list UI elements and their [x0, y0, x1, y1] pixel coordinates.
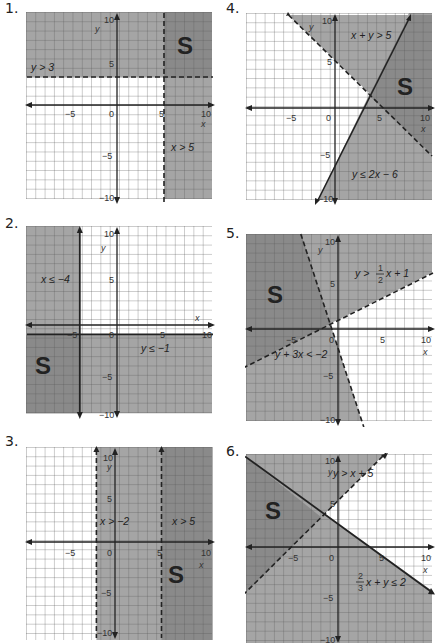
- tick-x-5: 5: [377, 113, 382, 123]
- problem-number-3: 3.: [5, 433, 18, 449]
- tick-x-m5: −5: [65, 109, 75, 119]
- x-axis-label: x: [420, 124, 426, 134]
- y-axis-label: y: [317, 245, 323, 255]
- tick-y-m5: −5: [101, 588, 111, 598]
- tick-y-10: 10: [104, 229, 114, 239]
- tick-x-10: 10: [420, 113, 430, 123]
- tick-y-m10: −10: [320, 635, 335, 643]
- tick-y-m5: −5: [323, 371, 333, 381]
- solution-label: S: [177, 32, 193, 59]
- problem-number-4: 4.: [226, 0, 239, 16]
- tick-x-0: 0: [109, 330, 114, 340]
- inequality-label-2: x > 5: [170, 141, 194, 153]
- svg-text:3: 3: [358, 583, 363, 593]
- tick-x-10: 10: [201, 109, 211, 119]
- tick-y-m5: −5: [320, 150, 330, 160]
- graph-2: −5 0 5 10 10 5 −5 −10 y x x ≤ −4 y ≤ −1 …: [25, 225, 215, 419]
- y-axis-label: y: [100, 243, 106, 253]
- tick-x-0: 0: [107, 548, 112, 558]
- tick-y-m10: −10: [99, 410, 114, 419]
- inequality-label-1: y > 3: [30, 61, 54, 73]
- tick-y-10: 10: [104, 15, 114, 25]
- problem-number-2: 2.: [5, 215, 18, 231]
- inequality-label-1: x ≤ −4: [40, 273, 70, 285]
- problem-number-6: 6.: [226, 443, 239, 459]
- grid: [26, 226, 212, 413]
- solution-label: S: [397, 73, 413, 100]
- y-axis-label: y: [308, 22, 314, 32]
- tick-x-5: 5: [159, 109, 164, 119]
- y-axis-arrow-down-icon: [335, 419, 341, 426]
- tick-y-m10: −10: [318, 194, 333, 204]
- tick-y-10: 10: [325, 237, 335, 247]
- grid: [246, 234, 432, 421]
- inequality-label-2: y ≤ 2x − 6: [351, 168, 398, 180]
- tick-y-m5: −5: [102, 372, 112, 382]
- tick-y-m5: −5: [323, 593, 333, 603]
- tick-x-m5: −5: [286, 335, 296, 345]
- graph-5: −5 0 5 10 10 5 −5 −10 y x y > 1 2 x + 1 …: [245, 233, 435, 427]
- line-arrow-icon: [77, 412, 83, 419]
- y-axis-label: y: [94, 24, 100, 34]
- tick-x-10: 10: [421, 335, 431, 345]
- tick-y-5: 5: [109, 59, 114, 69]
- tick-x-m5: −5: [288, 553, 298, 563]
- svg-text:x + y ≤ 2: x + y ≤ 2: [365, 576, 406, 588]
- grid: [246, 13, 432, 200]
- tick-y-10: 10: [322, 16, 332, 26]
- graph-6: −5 0 5 10 10 5 −5 −10 y x y > x + 5 2 3 …: [245, 453, 435, 643]
- x-axis-label: x: [198, 560, 204, 570]
- grid: [246, 454, 432, 643]
- tick-x-10: 10: [202, 330, 212, 340]
- problem-number-5: 5.: [226, 225, 239, 241]
- inequality-label-2: y ≤ −1: [140, 342, 170, 354]
- inequality-label-1: x + y > 5: [350, 29, 391, 41]
- grid: [26, 447, 212, 640]
- graph-1: −5 0 5 10 10 5 −5 −10 y x y > 3 x > 5 S: [25, 11, 215, 205]
- tick-x-5: 5: [157, 548, 162, 558]
- x-axis-label: x: [194, 313, 200, 323]
- x-axis-label: x: [422, 565, 428, 575]
- y-axis-arrow-down-icon: [114, 411, 120, 418]
- tick-y-5: 5: [109, 275, 114, 285]
- svg-text:x + 1: x + 1: [385, 267, 409, 279]
- graph-3: −5 0 5 10 10 5 −5 −10 y x x > −2 x > 5 S: [25, 446, 215, 640]
- tick-y-5: 5: [330, 279, 335, 289]
- problem-number-1: 1.: [5, 0, 18, 16]
- inequality-label-2: y + 3x < −2: [274, 348, 327, 360]
- x-axis-label: x: [422, 347, 428, 357]
- tick-x-10: 10: [201, 548, 211, 558]
- tick-y-m10: −10: [320, 415, 335, 425]
- tick-x-0: 0: [329, 553, 334, 563]
- tick-x-5: 5: [380, 335, 385, 345]
- solution-label: S: [168, 561, 184, 588]
- tick-y-m10: −10: [97, 628, 112, 638]
- tick-y-m10: −10: [99, 193, 114, 203]
- tick-x-m5: −5: [286, 113, 296, 123]
- svg-text:1: 1: [378, 263, 383, 273]
- tick-x-0: 0: [326, 113, 331, 123]
- tick-x-10: 10: [421, 553, 431, 563]
- x-axis-label: x: [200, 119, 206, 129]
- tick-x-5: 5: [160, 330, 165, 340]
- svg-text:2: 2: [378, 275, 383, 285]
- tick-x-m5: −5: [65, 548, 75, 558]
- svg-text:y >: y >: [354, 267, 369, 279]
- solution-label: S: [35, 352, 51, 379]
- tick-x-0: 0: [109, 109, 114, 119]
- tick-y-10: 10: [325, 456, 335, 466]
- tick-y-m5: −5: [102, 151, 112, 161]
- tick-y-5: 5: [107, 494, 112, 504]
- svg-text:2: 2: [358, 571, 363, 581]
- solution-label: S: [267, 281, 283, 308]
- tick-x-5: 5: [379, 553, 384, 563]
- tick-y-5: 5: [330, 499, 335, 509]
- y-axis-arrow-down-icon: [114, 197, 120, 204]
- graph-4: −5 0 5 10 10 5 −5 −10 y x x + y > 5 y ≤ …: [245, 12, 435, 206]
- y-axis-label: y: [106, 462, 112, 472]
- tick-y-5: 5: [327, 57, 332, 67]
- inequality-label-1: y > x + 5: [332, 467, 373, 479]
- tick-x-0: 0: [329, 335, 334, 345]
- inequality-label-2: x > 5: [171, 515, 195, 527]
- inequality-label-1: x > −2: [99, 515, 129, 527]
